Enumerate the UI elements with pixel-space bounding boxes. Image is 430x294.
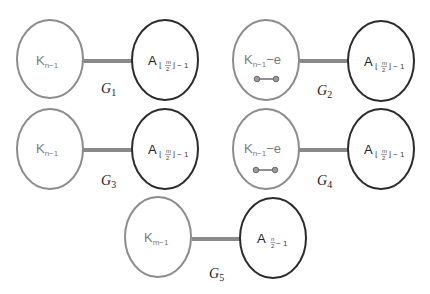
graph-label-g1: G1 bbox=[101, 81, 116, 98]
a-frac-num-g5: n bbox=[271, 236, 274, 242]
graph-label-g5: G5 bbox=[209, 266, 224, 283]
graph-g4: Kn−1−e A⌊ m 2 ⌋ − 1 G4 bbox=[233, 109, 414, 190]
graph-diagram: Kn−1 A⌊ m 2 ⌋ − 1 G1 Kn−1−e A⌊ m 2 ⌋ − 1… bbox=[0, 0, 430, 294]
graph-label-g2: G2 bbox=[317, 83, 332, 100]
graph-g5: Km−1 A n 2 − 1 G5 bbox=[125, 197, 306, 283]
a-suffix-g1: ⌋ − 1 bbox=[172, 61, 189, 70]
a-suffix-g5: − 1 bbox=[276, 239, 288, 248]
a-suffix-g3: ⌋ − 1 bbox=[172, 150, 189, 159]
a-label-g5: A bbox=[257, 231, 266, 246]
graph-label-g4: G4 bbox=[317, 173, 332, 190]
graph-g1: Kn−1 A⌊ m 2 ⌋ − 1 G1 bbox=[17, 20, 198, 100]
a-node-g3 bbox=[132, 109, 198, 189]
a-node-g1 bbox=[132, 20, 198, 100]
k-node-g5 bbox=[125, 197, 191, 277]
a-node-g2 bbox=[348, 21, 414, 101]
a-frac-num-g4: m bbox=[382, 148, 387, 154]
a-frac-num-g1: m bbox=[166, 59, 171, 65]
graph-g2: Kn−1−e A⌊ m 2 ⌋ − 1 G2 bbox=[233, 20, 414, 101]
a-frac-num-g3: m bbox=[166, 148, 171, 154]
a-frac-num-g2: m bbox=[382, 60, 387, 66]
graph-g3: Kn−1 A⌊ m 2 ⌋ − 1 G3 bbox=[17, 109, 198, 190]
graph-label-g3: G3 bbox=[101, 173, 116, 190]
a-suffix-g4: ⌋ − 1 bbox=[388, 150, 405, 159]
k-node-g1 bbox=[17, 20, 83, 98]
a-node-g4 bbox=[348, 109, 414, 189]
a-suffix-g2: ⌋ − 1 bbox=[388, 62, 405, 71]
